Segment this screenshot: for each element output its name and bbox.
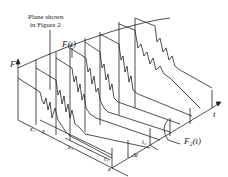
label-z2: z₂ — [68, 144, 73, 151]
label-t2: t₂ — [142, 139, 146, 146]
label-f-axis: F — [10, 60, 16, 69]
label-delta-t: Δt — [132, 152, 138, 159]
label-fz: F₂(t) — [184, 137, 201, 146]
waterfall-diagram: Plane shown in Figure 2 F(t) F t F₂(t) z… — [0, 0, 228, 177]
label-t1: t₁ — [104, 156, 108, 163]
label-z1: z₁ — [30, 126, 35, 133]
annotation-line1: Plane shown — [28, 14, 64, 21]
label-t-axis: t — [213, 110, 216, 119]
label-z-bottom: z — [108, 166, 111, 173]
annotation-line2: in Figure 2 — [30, 22, 61, 29]
label-ft: F(t) — [62, 40, 76, 49]
label-z: z — [42, 128, 45, 135]
